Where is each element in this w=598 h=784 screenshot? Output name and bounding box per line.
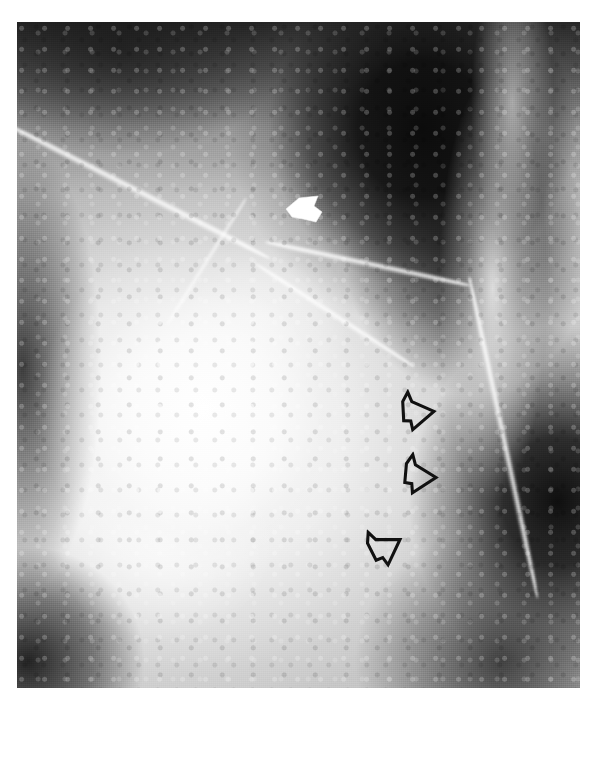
open-arrow-marker-2-icon [399,451,443,502]
bright-glandular-mass-region [17,22,580,688]
open-arrow-marker-3-icon [356,515,417,579]
bright-right-border-region [17,22,580,688]
lower-branch-vessel [253,261,416,370]
left-curve-branch-vessel [164,196,249,326]
dark-upper-right-fat-region [17,22,580,688]
tissue-mottle-texture [17,22,580,688]
open-arrow-marker-1-icon [396,386,443,440]
main-diagonal-vessel [17,118,272,262]
dark-lower-right-corner-region [17,22,580,688]
caption-area [17,694,580,782]
film-grain-texture [17,22,580,688]
tissue-base-density-layer [17,22,580,688]
figure-root [0,0,598,784]
dark-lower-left-wedge-region [17,22,580,688]
white-arrowhead-marker-icon [284,195,324,225]
upper-right-branch-vessel [264,238,471,289]
radiograph-image [17,22,580,688]
right-border-vessel [465,275,541,599]
dark-top-band-region [17,22,580,688]
